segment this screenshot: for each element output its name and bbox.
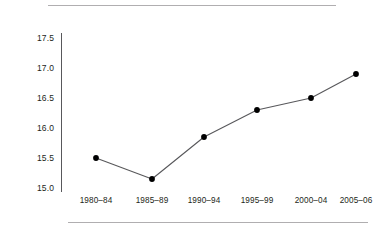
data-point-marker bbox=[93, 155, 99, 161]
data-point-marker bbox=[201, 134, 207, 140]
x-tick-4: 2000–04 bbox=[295, 197, 328, 205]
data-point-marker bbox=[308, 95, 314, 101]
x-tick-2: 1990–94 bbox=[188, 197, 221, 205]
plot-area: 17.5 17.0 16.5 16.0 15.5 15.0 1980–84 19… bbox=[0, 0, 390, 233]
data-point-marker bbox=[254, 107, 260, 113]
figure-container: 17.5 17.0 16.5 16.0 15.5 15.0 1980–84 19… bbox=[0, 0, 390, 233]
x-tick-5: 2005–06 bbox=[340, 197, 373, 205]
data-point-marker bbox=[353, 71, 359, 77]
x-tick-0: 1980–84 bbox=[80, 197, 113, 205]
data-point-marker bbox=[149, 176, 155, 182]
x-tick-3: 1995–99 bbox=[241, 197, 274, 205]
x-tick-1: 1985–89 bbox=[136, 197, 169, 205]
